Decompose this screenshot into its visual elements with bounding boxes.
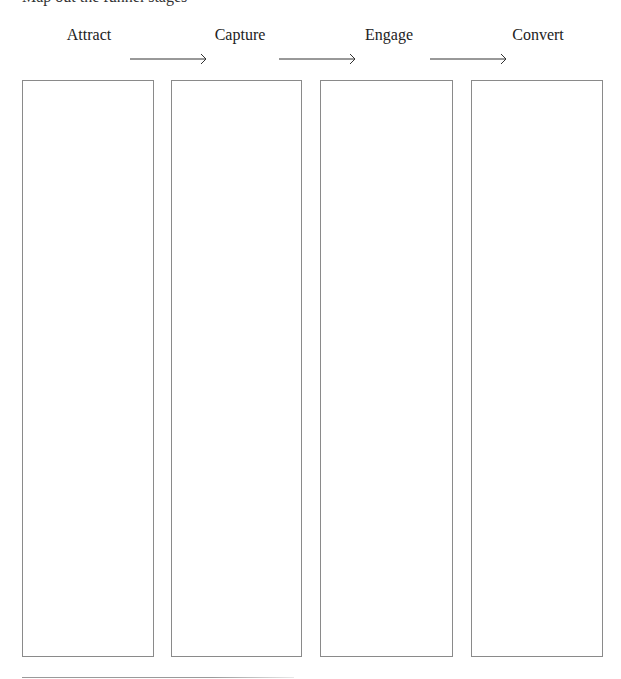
stage-label-convert: Convert (512, 26, 564, 44)
cut-off-header-text: Map out the funnel stages (22, 0, 187, 6)
stage-box-capture (171, 80, 302, 657)
arrow-right-icon (130, 53, 208, 65)
arrow-right-icon (430, 53, 508, 65)
stage-label-capture: Capture (215, 26, 266, 44)
stage-box-convert (471, 80, 603, 657)
stage-box-engage (320, 80, 453, 657)
arrow-right-icon (279, 53, 357, 65)
stage-label-engage: Engage (365, 26, 413, 44)
stage-label-attract: Attract (67, 26, 111, 44)
bottom-divider (22, 677, 294, 678)
stage-box-attract (22, 80, 154, 657)
